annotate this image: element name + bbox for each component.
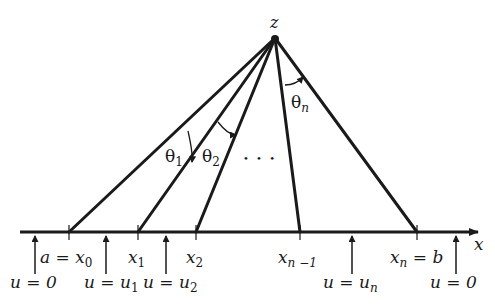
diagram-canvas: x z θ1 θ2 θn (0, 0, 495, 307)
polygon-angle-diagram: x z θ1 θ2 θn (0, 0, 495, 307)
apex-label: z (269, 13, 279, 32)
label-xn: xn = b (390, 247, 443, 270)
thetan-label: θn (291, 92, 309, 115)
x-axis-label: x (474, 234, 484, 254)
theta1-label: θ1 (165, 146, 183, 169)
u-label-2: u = u2 (143, 272, 198, 295)
label-x2: x2 (186, 247, 203, 270)
label-x1: x1 (128, 247, 145, 270)
u-label-end: u = 0 (430, 272, 477, 292)
label-xn-1: xn −1 (278, 247, 317, 270)
apex-point (271, 35, 279, 43)
u-label-0: u = 0 (10, 272, 57, 292)
ray-x0 (69, 38, 275, 232)
u-labels: u = 0 u = u1 u = u2 u = un u = 0 (10, 272, 477, 295)
point-labels: a = x0 x1 x2 xn −1 xn = b (40, 247, 443, 270)
label-x0: a = x0 (40, 247, 92, 270)
theta2-label: θ2 (202, 146, 220, 169)
u-label-1: u = u1 (84, 272, 139, 295)
ellipsis: • • • (243, 153, 277, 164)
angle-arc-theta2 (218, 122, 236, 135)
angle-arc-thetan (285, 77, 303, 85)
u-label-n: u = un (323, 272, 378, 295)
rays (69, 38, 417, 232)
